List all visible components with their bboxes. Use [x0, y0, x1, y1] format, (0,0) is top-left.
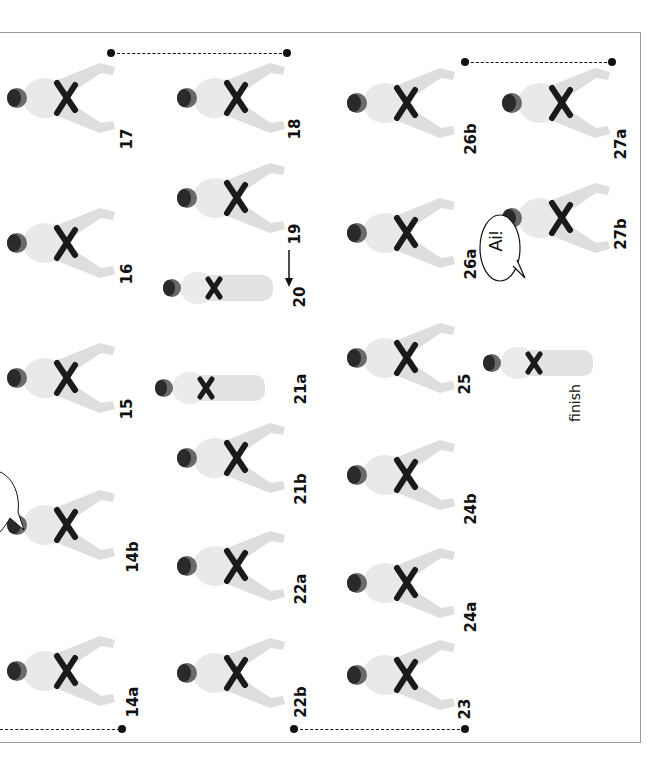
step-label-finish: finish	[567, 384, 583, 422]
step-label-22b: 22b	[292, 686, 310, 718]
kata-figure-26b	[345, 60, 465, 146]
kata-figure-24a	[345, 540, 465, 626]
kata-figure-22b	[175, 630, 295, 716]
page-frame-right	[640, 32, 641, 743]
karateka-icon	[5, 628, 125, 714]
speech-bubble-ai: Ai!	[477, 210, 527, 292]
karateka-icon	[5, 200, 125, 286]
step-label-24b: 24b	[462, 493, 480, 525]
karateka-icon	[175, 630, 295, 716]
kata-figure-15	[5, 335, 125, 421]
kata-figure-24b	[345, 432, 465, 518]
karateka-icon	[175, 415, 295, 501]
step-label-16: 16	[118, 264, 136, 285]
page-frame-top	[0, 32, 641, 33]
karateka-icon	[175, 155, 295, 241]
kata-figure-18	[175, 55, 295, 141]
step-label-21a: 21a	[292, 374, 310, 405]
kata-figure-21b	[175, 415, 295, 501]
step-label-26b: 26b	[462, 123, 480, 155]
speech-bubble-text: Ai!	[486, 230, 506, 251]
movement-arrow-down-icon	[284, 250, 294, 288]
kata-figure-19	[175, 155, 295, 241]
step-label-18: 18	[286, 119, 304, 140]
karateka-icon	[345, 432, 465, 518]
karateka-icon	[175, 523, 295, 609]
karateka-icon	[345, 315, 465, 401]
step-label-22a: 22a	[292, 574, 310, 605]
step-label-24a: 24a	[462, 602, 480, 633]
step-label-14a: 14a	[124, 687, 142, 718]
karateka-icon	[345, 540, 465, 626]
step-label-21b: 21b	[292, 473, 310, 505]
kata-figure-14a	[5, 628, 125, 714]
kata-figure-27a	[500, 60, 620, 146]
step-label-14b: 14b	[124, 541, 142, 573]
speech-bubble-14b-partial	[0, 470, 26, 550]
kata-figure-16	[5, 200, 125, 286]
kata-figure-26a	[345, 190, 465, 276]
step-label-23: 23	[456, 699, 474, 720]
step-label-19: 19	[286, 224, 304, 245]
karateka-icon	[345, 190, 465, 276]
karateka-icon	[175, 55, 295, 141]
step-label-26a: 26a	[462, 249, 480, 280]
kata-figure-17	[5, 55, 125, 141]
karateka-icon	[345, 60, 465, 146]
step-label-27a: 27a	[612, 129, 630, 160]
step-label-27b: 27b	[612, 218, 630, 250]
step-label-17: 17	[118, 129, 136, 150]
step-label-15: 15	[118, 399, 136, 420]
page-frame-bottom	[0, 742, 641, 743]
karateka-icon	[500, 60, 620, 146]
karateka-icon	[158, 245, 278, 331]
karateka-icon	[345, 632, 465, 718]
step-label-20: 20	[291, 287, 309, 308]
kata-figure-23	[345, 632, 465, 718]
kata-figure-22a	[175, 523, 295, 609]
kata-figure-25	[345, 315, 465, 401]
kata-figure-20	[158, 245, 278, 331]
step-label-25: 25	[456, 374, 474, 395]
karateka-icon	[5, 55, 125, 141]
karateka-icon	[5, 335, 125, 421]
